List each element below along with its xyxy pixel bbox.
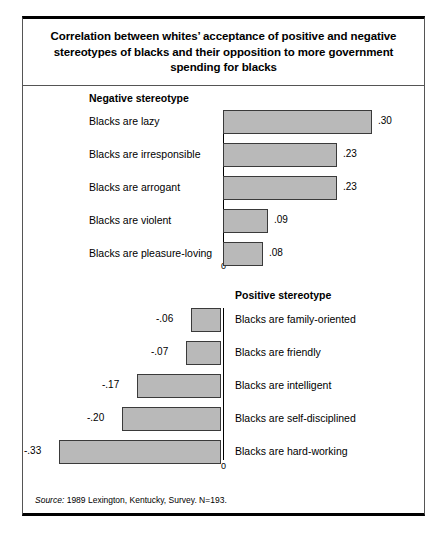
bar-row: -.07 Blacks are friendly (23, 341, 424, 365)
bar-category-label: Blacks are family-oriented (235, 313, 356, 325)
bar-row: Blacks are violent .09 (23, 209, 424, 233)
bar-positive-1 (186, 341, 221, 365)
bar-row: Blacks are pleasure-loving .08 (23, 242, 424, 266)
plot-area: Negative stereotype 0 Blacks are lazy .3… (23, 86, 424, 472)
bar-positive-0 (191, 308, 221, 332)
bar-value-label: .23 (343, 148, 357, 159)
chart-title: Correlation between whites’ acceptance o… (41, 29, 406, 76)
bar-row: -.17 Blacks are intelligent (23, 374, 424, 398)
bar-value-label: -.33 (24, 445, 41, 456)
bar-value-label: -.07 (151, 346, 168, 357)
section-heading-negative: Negative stereotype (89, 92, 189, 104)
bar-row: -.20 Blacks are self-disciplined (23, 407, 424, 431)
bar-value-label: .23 (343, 181, 357, 192)
bar-row: Blacks are lazy .30 (23, 110, 424, 134)
bar-negative-0 (223, 110, 372, 134)
source-text: 1989 Lexington, Kentucky, Survey. N=193. (64, 495, 226, 505)
bar-row: -.06 Blacks are family-oriented (23, 308, 424, 332)
bar-category-label: Blacks are intelligent (235, 379, 331, 391)
source-prefix: Source: (35, 495, 64, 505)
bar-category-label: Blacks are irresponsible (89, 148, 200, 160)
bar-row: Blacks are irresponsible .23 (23, 143, 424, 167)
bar-value-label: -.20 (87, 412, 104, 423)
bar-value-label: .30 (378, 115, 392, 126)
bar-positive-3 (122, 407, 221, 431)
bar-value-label: -.06 (156, 313, 173, 324)
bar-category-label: Blacks are violent (89, 214, 171, 226)
bar-value-label: .08 (269, 247, 283, 258)
bar-category-label: Blacks are pleasure-loving (89, 247, 212, 259)
bar-row: -.33 Blacks are hard-working (23, 440, 424, 464)
bar-category-label: Blacks are lazy (89, 115, 160, 127)
source-note: Source: 1989 Lexington, Kentucky, Survey… (35, 495, 227, 505)
bar-row: Blacks are arrogant .23 (23, 176, 424, 200)
bar-value-label: .09 (274, 214, 288, 225)
bar-category-label: Blacks are arrogant (89, 181, 180, 193)
bar-negative-4 (223, 242, 263, 266)
bar-positive-4 (59, 440, 221, 464)
bar-negative-3 (223, 209, 268, 233)
bar-positive-2 (137, 374, 221, 398)
section-heading-positive: Positive stereotype (235, 289, 331, 301)
bar-negative-1 (223, 143, 337, 167)
figure-frame: Correlation between whites’ acceptance o… (22, 16, 425, 516)
bar-value-label: -.17 (102, 379, 119, 390)
bar-negative-2 (223, 176, 337, 200)
bar-category-label: Blacks are self-disciplined (235, 412, 356, 424)
title-block: Correlation between whites’ acceptance o… (23, 19, 424, 86)
bar-category-label: Blacks are friendly (235, 346, 321, 358)
bar-category-label: Blacks are hard-working (235, 445, 348, 457)
